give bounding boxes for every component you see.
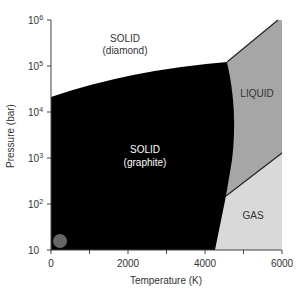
- svg-text:105: 105: [28, 60, 43, 72]
- svg-text:106: 106: [28, 14, 43, 26]
- y-ticks: [47, 20, 51, 250]
- gas-label: GAS: [242, 210, 263, 221]
- svg-text:102: 102: [28, 198, 43, 210]
- svg-text:4000: 4000: [194, 258, 217, 269]
- diamond-label: SOLID: [110, 33, 140, 44]
- standard-conditions-marker: [53, 234, 67, 248]
- graphite-sublabel: (graphite): [124, 157, 167, 168]
- svg-text:104: 104: [28, 106, 43, 118]
- liquid-label: LIQUID: [240, 88, 273, 99]
- svg-text:6000: 6000: [271, 258, 294, 269]
- y-axis-title: Pressure (bar): [5, 104, 16, 168]
- svg-text:103: 103: [28, 152, 43, 164]
- carbon-phase-diagram: 106 105 104 103 102 10 0 2000 4000 6000 …: [0, 0, 304, 290]
- graphite-label: SOLID: [130, 144, 160, 155]
- svg-text:10: 10: [28, 245, 40, 256]
- x-ticks: [51, 250, 282, 254]
- y-tick-labels: 106 105 104 103 102 10: [28, 14, 43, 256]
- graphite-region: [51, 62, 234, 250]
- svg-text:0: 0: [48, 258, 54, 269]
- svg-text:2000: 2000: [117, 258, 140, 269]
- x-axis-title: Temperature (K): [130, 275, 202, 286]
- diamond-sublabel: (diamond): [102, 45, 147, 56]
- x-tick-labels: 0 2000 4000 6000: [48, 258, 293, 269]
